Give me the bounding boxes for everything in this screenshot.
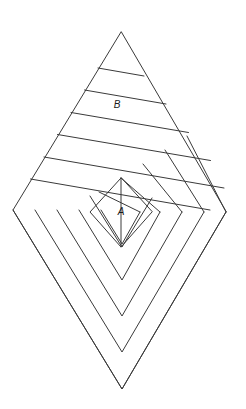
label-b: B xyxy=(114,99,121,110)
figure-background xyxy=(0,0,246,409)
rhombus-diagram: BA xyxy=(0,0,246,409)
figure-root: BA xyxy=(0,0,246,409)
label-a: A xyxy=(117,206,125,217)
